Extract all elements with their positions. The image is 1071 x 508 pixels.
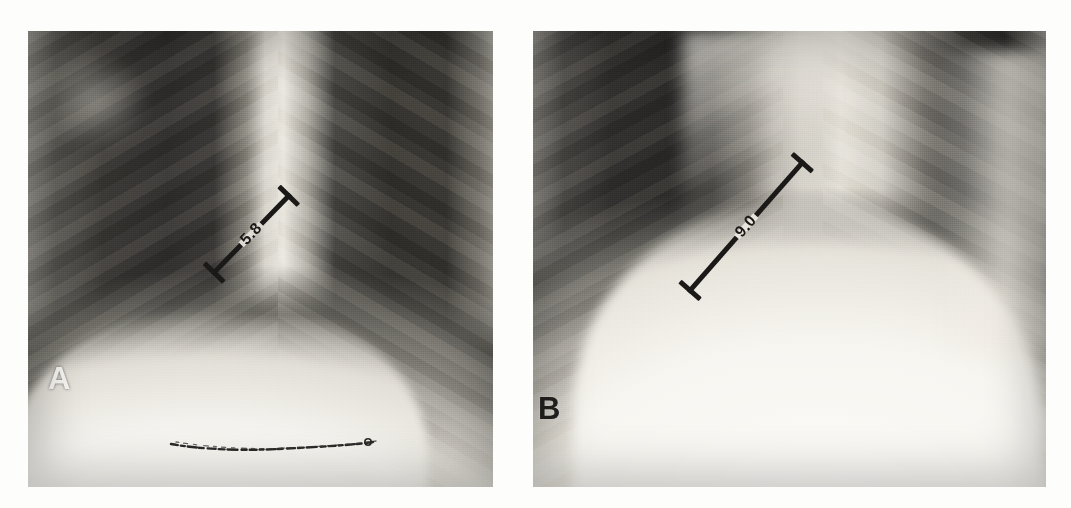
panel-label-b: B	[538, 393, 561, 424]
radiograph-panel-b[interactable]: 9.0 B	[533, 31, 1046, 487]
panel-label-a: A	[48, 363, 71, 394]
panel-a-aortic-knob	[28, 31, 178, 171]
panel-a-costophrenic-angle	[358, 361, 493, 487]
radiograph-panel-a[interactable]: 5.8 A	[28, 31, 493, 487]
radiograph-figure: 5.8 A 9.0 B	[0, 0, 1071, 508]
panel-b-lateral-bright-band	[933, 51, 1046, 351]
